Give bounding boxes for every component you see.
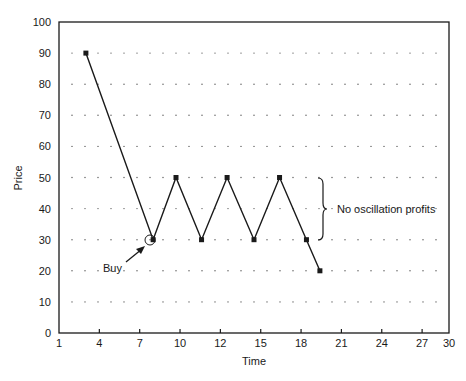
grid-dot: [136, 208, 137, 209]
grid-dot: [175, 115, 176, 116]
grid-dot: [175, 208, 176, 209]
grid-dot: [240, 84, 241, 85]
price-time-chart: 1471012151821242730 01020304050607080901…: [0, 0, 466, 381]
grid-dot: [422, 52, 423, 53]
grid-dot: [266, 84, 267, 85]
grid-dot: [110, 177, 111, 178]
grid-dot: [305, 177, 306, 178]
grid-dot: [201, 52, 202, 53]
x-tick-label: 10: [174, 337, 186, 349]
grid-dot: [266, 301, 267, 302]
grid-dot: [123, 301, 124, 302]
grid-dot: [305, 115, 306, 116]
grid-dot: [175, 301, 176, 302]
grid-dot: [84, 239, 85, 240]
grid-dot: [110, 146, 111, 147]
grid-dot: [84, 146, 85, 147]
grid-dot: [97, 208, 98, 209]
grid-dot: [240, 239, 241, 240]
buy-annotation: Buy: [103, 262, 122, 274]
data-point-marker: [277, 175, 282, 180]
grid-dot: [383, 270, 384, 271]
grid-dot: [331, 146, 332, 147]
y-tick-label: 100: [33, 16, 51, 28]
grid-dot: [279, 84, 280, 85]
y-tick-label: 90: [39, 47, 51, 59]
y-tick-label: 0: [45, 327, 51, 339]
grid-dot: [253, 177, 254, 178]
grid-dot: [162, 177, 163, 178]
x-tick-label: 30: [443, 337, 455, 349]
grid-dot: [123, 52, 124, 53]
grid-dot: [292, 84, 293, 85]
grid-dot: [84, 177, 85, 178]
x-axis-label: Time: [242, 355, 266, 367]
grid-dots: [71, 52, 436, 302]
grid-dot: [292, 177, 293, 178]
grid-dot: [227, 270, 228, 271]
grid-dot: [279, 208, 280, 209]
grid-dot: [123, 115, 124, 116]
grid-dot: [370, 146, 371, 147]
grid-dot: [214, 239, 215, 240]
grid-dot: [266, 52, 267, 53]
grid-dot: [409, 301, 410, 302]
grid-dot: [240, 270, 241, 271]
grid-dot: [422, 239, 423, 240]
grid-dot: [214, 84, 215, 85]
grid-dot: [149, 301, 150, 302]
grid-dot: [214, 115, 215, 116]
grid-dot: [240, 146, 241, 147]
grid-dot: [227, 301, 228, 302]
grid-dot: [344, 146, 345, 147]
grid-dot: [370, 270, 371, 271]
grid-dot: [175, 239, 176, 240]
grid-dot: [305, 301, 306, 302]
grid-dot: [357, 146, 358, 147]
grid-dot: [435, 177, 436, 178]
x-tick-label: 15: [255, 337, 267, 349]
grid-dot: [292, 270, 293, 271]
grid-dot: [71, 146, 72, 147]
grid-dot: [162, 84, 163, 85]
x-tick-label: 7: [137, 337, 143, 349]
grid-dot: [409, 146, 410, 147]
grid-dot: [435, 270, 436, 271]
grid-dot: [396, 115, 397, 116]
grid-dot: [110, 84, 111, 85]
grid-dot: [84, 270, 85, 271]
grid-dot: [435, 52, 436, 53]
grid-dot: [136, 177, 137, 178]
grid-dot: [344, 115, 345, 116]
grid-dot: [214, 301, 215, 302]
x-tick-label: 1: [56, 337, 62, 349]
grid-dot: [344, 84, 345, 85]
grid-dot: [136, 84, 137, 85]
grid-dot: [292, 115, 293, 116]
grid-dot: [279, 115, 280, 116]
grid-dot: [227, 52, 228, 53]
grid-dot: [227, 239, 228, 240]
grid-dot: [71, 84, 72, 85]
grid-dot: [292, 52, 293, 53]
grid-dot: [370, 239, 371, 240]
grid-dot: [97, 115, 98, 116]
y-tick-label: 40: [39, 203, 51, 215]
grid-dot: [84, 208, 85, 209]
y-tick-label: 10: [39, 296, 51, 308]
grid-dot: [162, 301, 163, 302]
grid-dot: [344, 52, 345, 53]
grid-dot: [97, 146, 98, 147]
no-oscillation-annotation: No oscillation profits: [337, 203, 436, 215]
grid-dot: [422, 301, 423, 302]
grid-dot: [370, 301, 371, 302]
grid-dot: [227, 115, 228, 116]
grid-dot: [162, 239, 163, 240]
grid-dot: [71, 270, 72, 271]
y-tick-label: 70: [39, 109, 51, 121]
grid-dot: [162, 270, 163, 271]
grid-dot: [240, 52, 241, 53]
grid-dot: [409, 115, 410, 116]
grid-dot: [149, 177, 150, 178]
grid-dot: [357, 52, 358, 53]
